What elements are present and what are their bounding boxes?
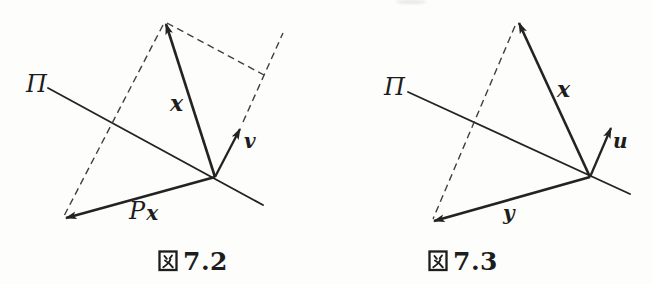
vector-v-label: v — [244, 129, 256, 153]
dashed-v-extension — [243, 33, 283, 122]
figure-7-3: Π x u y 7.3 — [383, 23, 630, 276]
vector-x-label: x — [169, 90, 184, 116]
vector-y-label: y — [502, 201, 516, 225]
vector-v-arrow — [215, 129, 240, 177]
vector-x-label: x — [556, 76, 571, 102]
plane-line — [408, 92, 630, 194]
figure-7-2-number: 7.2 — [183, 247, 228, 276]
vector-u-arrow — [590, 128, 611, 177]
plane-pi-label: Π — [383, 73, 406, 101]
projection-px-label: Px — [128, 197, 159, 225]
plane-pi-label: Π — [25, 70, 48, 98]
dashed-xtip-to-px-tip — [64, 25, 163, 216]
dashed-xtip-to-ytip — [433, 26, 515, 219]
kanji-zu-icon — [160, 252, 177, 271]
textbook-figure-panel: Π x v Px 7.2 — [0, 0, 652, 284]
figure-7-2: Π x v Px 7.2 — [25, 23, 283, 276]
figure-7-3-caption: 7.3 — [430, 247, 499, 276]
figure-7-3-number: 7.3 — [453, 247, 498, 276]
dashed-xtip-parallel-plane — [167, 23, 264, 75]
vector-x-arrow — [519, 23, 590, 177]
vector-projection-diagrams: Π x v Px 7.2 — [0, 0, 652, 284]
vector-u-label: u — [613, 129, 628, 153]
kanji-zu-icon — [430, 252, 447, 271]
figure-7-2-caption: 7.2 — [160, 247, 229, 276]
